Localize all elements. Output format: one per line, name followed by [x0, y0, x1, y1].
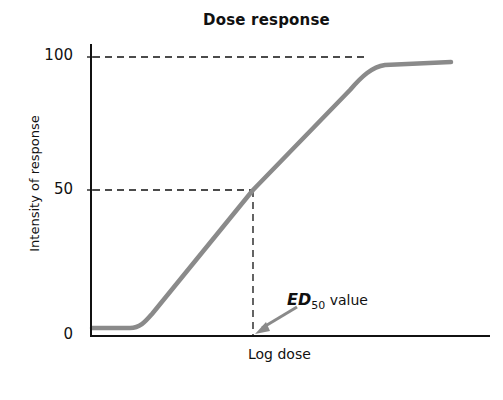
ed-label: ED	[287, 290, 311, 309]
ed-value-text: value	[325, 292, 368, 308]
dose-response-curve	[92, 62, 451, 328]
ed50-annotation: ED50 value	[287, 290, 368, 312]
ed-subscript: 50	[311, 299, 325, 312]
x-axis-label: Log dose	[248, 346, 311, 362]
plot-area	[0, 0, 503, 400]
